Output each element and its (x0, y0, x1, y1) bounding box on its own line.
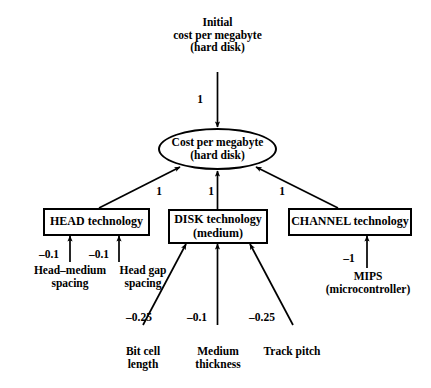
node-head-gap-spacing: Head gap spacing (105, 264, 181, 289)
weight-head-to-center: 1 (152, 185, 166, 197)
node-initial-cost-per-megabyte: Initial cost per megabyte (hard disk) (147, 16, 288, 54)
weight-mips: –1 (338, 252, 360, 264)
node-medium-thickness: Medium thickness (185, 345, 251, 370)
node-mips-microcontroller: MIPS (microcontroller) (318, 270, 418, 295)
weight-head-gap-spacing: –0.1 (84, 248, 114, 260)
weight-disk-to-center: 1 (204, 185, 218, 197)
node-bit-cell-length: Bit cell length (110, 345, 176, 370)
node-cost-per-megabyte: Cost per megabyte (hard disk) (158, 128, 277, 170)
weight-bit-cell-length: –0.25 (120, 311, 158, 323)
node-disk-technology: DISK technology (medium) (168, 209, 268, 244)
node-channel-technology: CHANNEL technology (288, 208, 412, 236)
causal-loop-diagram: Initial cost per megabyte (hard disk) Co… (0, 0, 431, 388)
node-head-technology-label: HEAD technology (50, 215, 143, 229)
weight-channel-to-center: 1 (275, 185, 289, 197)
weight-medium-thickness: –0.1 (182, 311, 212, 323)
node-channel-technology-label: CHANNEL technology (291, 215, 409, 229)
weight-initial-to-center: 1 (193, 93, 207, 105)
node-head-technology: HEAD technology (43, 208, 150, 236)
edge-channel-to-center (256, 167, 338, 208)
weight-head-medium-spacing: –0.1 (34, 248, 64, 260)
edge-head-to-center (99, 167, 180, 208)
weight-track-pitch: –0.25 (243, 311, 281, 323)
node-cost-per-megabyte-label: Cost per megabyte (hard disk) (172, 136, 264, 162)
node-track-pitch: Track pitch (254, 345, 330, 358)
node-disk-technology-label: DISK technology (medium) (174, 213, 262, 240)
